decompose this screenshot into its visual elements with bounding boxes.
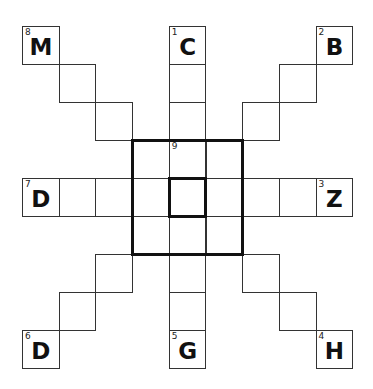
grid-cell[interactable] xyxy=(95,254,133,293)
cell-letter: Z xyxy=(317,186,353,212)
grid-cell[interactable]: 4H xyxy=(316,330,354,369)
grid-cell[interactable]: 2B xyxy=(316,26,354,65)
grid-cell[interactable] xyxy=(95,178,133,217)
cell-letter: B xyxy=(317,34,353,60)
grid-cell[interactable] xyxy=(169,64,207,103)
cell-letter: D xyxy=(23,338,59,364)
grid-cell[interactable]: 8M xyxy=(22,26,60,65)
grid-cell[interactable] xyxy=(132,216,170,255)
grid-cell[interactable] xyxy=(59,292,97,331)
grid-cell[interactable] xyxy=(242,178,280,217)
grid-cell[interactable] xyxy=(279,64,317,103)
grid-cell[interactable] xyxy=(59,178,97,217)
grid-cell[interactable]: 9 xyxy=(169,140,207,179)
clue-number: 9 xyxy=(172,141,178,151)
grid-cell[interactable] xyxy=(279,292,317,331)
grid-cell[interactable]: 5G xyxy=(169,330,207,369)
crossword-grid: 8M1C2B97D3Z6D5G4H xyxy=(0,0,373,389)
cell-letter: H xyxy=(317,338,353,364)
cell-letter: M xyxy=(23,34,59,60)
cell-letter: G xyxy=(170,338,206,364)
cell-letter: D xyxy=(23,186,59,212)
grid-cell[interactable]: 6D xyxy=(22,330,60,369)
grid-cell[interactable] xyxy=(169,178,207,217)
grid-cell[interactable] xyxy=(279,178,317,217)
grid-cell[interactable] xyxy=(95,102,133,141)
grid-cell[interactable] xyxy=(242,102,280,141)
grid-cell[interactable] xyxy=(59,64,97,103)
grid-cell[interactable] xyxy=(169,102,207,141)
grid-cell[interactable] xyxy=(242,254,280,293)
grid-cell[interactable] xyxy=(132,178,170,217)
grid-cell[interactable] xyxy=(206,216,244,255)
grid-cell[interactable] xyxy=(132,140,170,179)
grid-cell[interactable] xyxy=(169,254,207,293)
grid-cell[interactable] xyxy=(206,140,244,179)
cell-letter: C xyxy=(170,34,206,60)
grid-cell[interactable] xyxy=(169,292,207,331)
grid-cell[interactable]: 7D xyxy=(22,178,60,217)
grid-cell[interactable]: 3Z xyxy=(316,178,354,217)
grid-cell[interactable]: 1C xyxy=(169,26,207,65)
grid-cell[interactable] xyxy=(169,216,207,255)
grid-cell[interactable] xyxy=(206,178,244,217)
